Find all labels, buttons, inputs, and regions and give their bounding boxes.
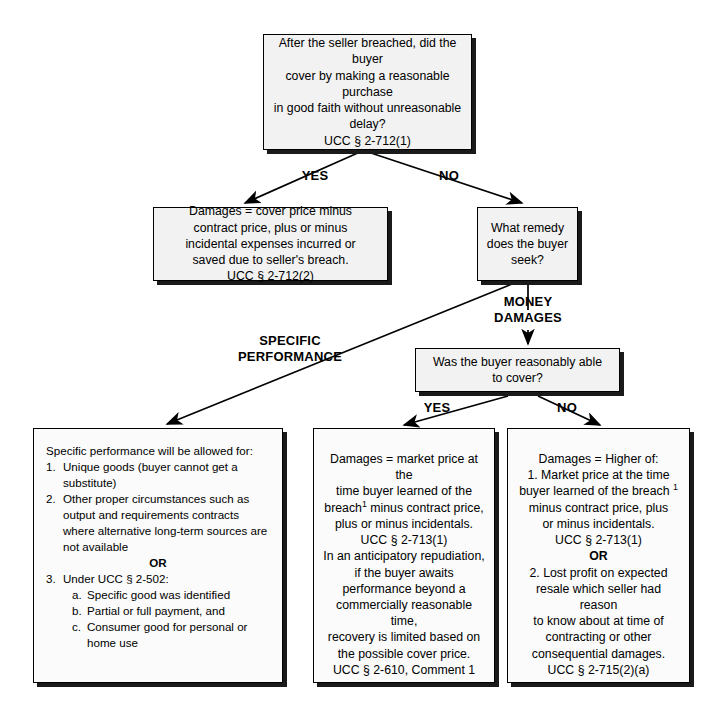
- root-line-4: delay?: [272, 116, 463, 132]
- edge-label-specific-performance: SPECIFIC PERFORMANCE: [210, 333, 370, 364]
- sp-item-1-text: Unique goods (buyer cannot get a substit…: [63, 459, 270, 491]
- mp-p2-line-6: the possible cover price.: [322, 646, 486, 662]
- sp-item-1-marker: 1.: [46, 459, 63, 491]
- ho-footnote-marker: 1: [673, 482, 678, 492]
- sp-subitem-a: a. Specific good was identified: [46, 587, 270, 603]
- ho-or-separator: OR: [516, 548, 681, 564]
- ho-p1-line-4: or minus incidentals.: [516, 516, 681, 532]
- node-remedy-question: What remedy does the buyer seek?: [477, 207, 578, 281]
- remedy-line-2: does the buyer: [486, 236, 569, 252]
- node-specific-performance: Specific performance will be allowed for…: [33, 428, 283, 683]
- ho-p2-line-5: consequential damages.: [516, 646, 681, 662]
- root-line-3: in good faith without unreasonable: [272, 100, 463, 116]
- sp-subitem-b: b. Partial or full payment, and: [46, 603, 270, 619]
- root-citation: UCC § 2-712(1): [272, 133, 463, 149]
- edge-label-root-yes: YES: [295, 168, 335, 184]
- sp-subitem-b-marker: b.: [72, 603, 87, 619]
- ho-p1-line-3: minus contract price, plus: [516, 500, 681, 516]
- sp-item-2-text: Other proper circumstances such as outpu…: [63, 491, 270, 555]
- flowchart-canvas: After the seller breached, did the buyer…: [0, 0, 726, 722]
- ho-p2-line-1: 2. Lost profit on expected: [516, 565, 681, 581]
- sp-subitem-c: c. Consumer good for personal or home us…: [46, 619, 270, 651]
- sp-subitem-a-marker: a.: [72, 587, 87, 603]
- mp-breach-rest: minus contract price,: [367, 501, 484, 515]
- mp-citation-1: UCC § 2-713(1): [322, 532, 486, 548]
- node-market-price-damages: Damages = market price at the time buyer…: [313, 428, 495, 683]
- sp-item-3: 3. Under UCC § 2-502:: [46, 571, 270, 587]
- able-to-cover-line-1: Was the buyer reasonably able: [424, 354, 611, 370]
- edge-label-root-no: NO: [432, 168, 466, 184]
- cover-damages-line-4: saved due to seller's breach.: [162, 252, 379, 268]
- mp-p2-line-5: recovery is limited based on: [322, 629, 486, 645]
- ho-p2-line-4: contracting or other: [516, 629, 681, 645]
- ho-p1-line-1: 1. Market price at the time: [516, 467, 681, 483]
- remedy-line-1: What remedy: [486, 220, 569, 236]
- node-root-question: After the seller breached, did the buyer…: [263, 34, 472, 150]
- edge-label-money-damages: MONEY DAMAGES: [478, 294, 578, 325]
- sp-item-2: 2. Other proper circumstances such as ou…: [46, 491, 270, 555]
- ho-lead: Damages = Higher of:: [516, 451, 681, 467]
- mp-p1-line-2: time buyer learned of the: [322, 483, 486, 499]
- mp-p1-line-1: Damages = market price at the: [322, 451, 486, 483]
- sp-item-2-marker: 2.: [46, 491, 63, 555]
- ho-citation-1: UCC § 2-713(1): [516, 532, 681, 548]
- sp-item-3-text: Under UCC § 2-502:: [63, 571, 270, 587]
- sp-subitem-c-marker: c.: [72, 619, 87, 651]
- sp-lead: Specific performance will be allowed for…: [46, 443, 270, 459]
- node-cover-damages: Damages = cover price minus contract pri…: [153, 207, 388, 281]
- ho-p2-line-3: to know about at time of: [516, 613, 681, 629]
- cover-damages-citation: UCC § 2-712(2): [162, 268, 379, 284]
- sp-item-1: 1. Unique goods (buyer cannot get a subs…: [46, 459, 270, 491]
- ho-breach-text: buyer learned of the breach: [519, 484, 673, 498]
- cover-damages-line-2: contract price, plus or minus: [162, 220, 379, 236]
- sp-subitem-a-text: Specific good was identified: [87, 587, 270, 603]
- mp-breach-word: breach: [324, 501, 362, 515]
- mp-p1-line-4: plus or minus incidentals.: [322, 516, 486, 532]
- mp-p1-line-3: breach1 minus contract price,: [322, 500, 486, 516]
- sp-item-3-marker: 3.: [46, 571, 63, 587]
- ho-p1-line-2: buyer learned of the breach 1: [516, 483, 681, 499]
- cover-damages-line-3: incidental expenses incurred or: [162, 236, 379, 252]
- node-able-to-cover-question: Was the buyer reasonably able to cover?: [415, 348, 620, 392]
- sp-subitem-c-text: Consumer good for personal or home use: [87, 619, 270, 651]
- node-higher-of-damages: Damages = Higher of: 1. Market price at …: [507, 428, 690, 683]
- cover-damages-line-1: Damages = cover price minus: [162, 203, 379, 219]
- ho-citation-2: UCC § 2-715(2)(a): [516, 662, 681, 678]
- edge-label-cover-no: NO: [550, 400, 584, 416]
- remedy-line-3: seek?: [486, 252, 569, 268]
- sp-subitem-b-text: Partial or full payment, and: [87, 603, 270, 619]
- mp-citation-2: UCC § 2-610, Comment 1: [322, 662, 486, 678]
- able-to-cover-line-2: to cover?: [424, 370, 611, 386]
- mp-p2-line-3: performance beyond a: [322, 581, 486, 597]
- mp-p2-line-2: if the buyer awaits: [322, 565, 486, 581]
- mp-p2-line-1: In an anticipatory repudiation,: [322, 548, 486, 564]
- root-line-2: cover by making a reasonable purchase: [272, 68, 463, 100]
- mp-p2-line-4: commercially reasonable time,: [322, 597, 486, 629]
- edge-label-cover-yes: YES: [417, 400, 457, 416]
- sp-or-separator: OR: [46, 555, 270, 571]
- root-line-1: After the seller breached, did the buyer: [272, 35, 463, 67]
- ho-p2-line-2: resale which seller had reason: [516, 581, 681, 613]
